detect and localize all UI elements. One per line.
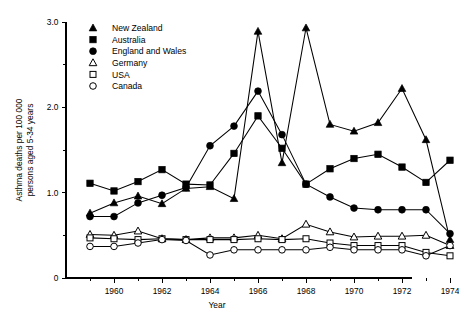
data-point-marker: [447, 230, 454, 237]
x-tick-label: 1972: [393, 286, 412, 296]
data-point-marker: [231, 123, 238, 130]
data-point-marker: [255, 88, 262, 95]
data-point-marker: [207, 237, 213, 243]
y-axis-title-line1: Asthma deaths per 100 000: [14, 98, 24, 201]
data-point-marker: [422, 136, 430, 143]
data-point-marker: [231, 150, 237, 156]
data-point-marker: [89, 24, 97, 31]
data-point-marker: [327, 244, 334, 251]
data-point-marker: [303, 181, 310, 188]
x-tick-label: 1968: [297, 286, 316, 296]
data-point-marker: [134, 192, 142, 199]
data-point-marker: [111, 236, 117, 242]
data-point-marker: [111, 188, 117, 194]
legend-label: Canada: [112, 81, 142, 91]
data-point-marker: [303, 236, 309, 242]
x-tick-label: 1970: [345, 286, 364, 296]
data-point-marker: [374, 232, 382, 239]
series-line: [90, 240, 450, 256]
data-point-marker: [351, 155, 357, 161]
data-point-marker: [87, 235, 93, 241]
data-point-marker: [207, 142, 214, 149]
data-point-marker: [303, 247, 310, 254]
data-point-marker: [399, 247, 406, 254]
legend-label: Germany: [112, 58, 148, 68]
x-tick-label: 1966: [249, 286, 268, 296]
data-point-marker: [90, 48, 97, 55]
data-point-marker: [207, 252, 214, 259]
data-point-marker: [302, 220, 310, 227]
data-point-marker: [399, 206, 406, 213]
data-point-marker: [255, 236, 261, 242]
data-point-marker: [135, 240, 142, 247]
data-point-marker: [159, 166, 165, 172]
data-point-marker: [135, 200, 142, 207]
legend-label: Australia: [112, 35, 146, 45]
legend-label: England and Wales: [112, 46, 186, 56]
data-point-marker: [447, 157, 453, 163]
data-point-marker: [279, 237, 285, 243]
legend-label: USA: [112, 70, 130, 80]
data-point-marker: [207, 182, 213, 188]
data-point-marker: [90, 83, 97, 90]
y-tick-label: 3.0: [47, 17, 59, 27]
x-axis-title: Year: [209, 300, 226, 310]
data-point-marker: [183, 237, 190, 244]
data-point-marker: [111, 213, 118, 220]
data-point-marker: [423, 206, 430, 213]
data-point-marker: [375, 247, 382, 254]
data-point-marker: [278, 159, 286, 166]
data-point-marker: [90, 36, 96, 42]
series-line: [90, 91, 450, 234]
data-point-marker: [279, 247, 286, 254]
data-point-marker: [447, 253, 453, 259]
data-point-marker: [279, 131, 286, 138]
data-point-marker: [399, 164, 405, 170]
data-point-marker: [230, 195, 238, 202]
data-point-marker: [375, 206, 382, 213]
data-point-marker: [327, 166, 333, 172]
data-point-marker: [255, 247, 262, 254]
data-point-marker: [302, 24, 310, 31]
data-point-marker: [111, 243, 118, 250]
data-point-marker: [183, 184, 190, 191]
x-tick-label: 1962: [153, 286, 172, 296]
series-australia: [87, 113, 453, 194]
data-point-marker: [351, 205, 358, 212]
axes-group: 01.02.03.0196019621964196619681970197219…: [14, 17, 459, 310]
y-tick-label: 0: [54, 273, 59, 283]
data-point-marker: [159, 192, 166, 199]
data-point-marker: [447, 242, 454, 249]
data-point-marker: [375, 151, 381, 157]
data-point-marker: [159, 236, 166, 243]
data-point-marker: [398, 85, 406, 92]
data-point-marker: [326, 120, 334, 127]
data-point-marker: [231, 247, 238, 254]
series-line: [90, 238, 450, 256]
data-point-marker: [87, 213, 94, 220]
data-point-marker: [327, 194, 334, 201]
series-line: [90, 116, 450, 191]
data-point-marker: [255, 113, 261, 119]
data-point-marker: [135, 178, 141, 184]
data-point-marker: [87, 180, 93, 186]
legend: New ZealandAustraliaEngland and WalesGer…: [89, 23, 186, 91]
y-axis-title-line2: persons aged 5-34 years: [25, 104, 35, 197]
chart-canvas: 01.02.03.0196019621964196619681970197219…: [0, 0, 459, 332]
x-tick-label: 1960: [105, 286, 124, 296]
legend-label: New Zealand: [112, 23, 163, 33]
data-point-marker: [90, 71, 96, 77]
asthma-mortality-chart: 01.02.03.0196019621964196619681970197219…: [0, 0, 459, 332]
data-point-marker: [422, 231, 430, 238]
data-point-marker: [423, 253, 430, 260]
series-england-and-wales: [87, 88, 454, 237]
data-point-marker: [423, 179, 429, 185]
x-tick-label: 1974: [441, 286, 459, 296]
data-point-marker: [87, 243, 94, 250]
x-tick-label: 1964: [201, 286, 220, 296]
data-point-marker: [134, 227, 142, 234]
y-tick-label: 1.0: [47, 188, 59, 198]
data-point-marker: [279, 145, 285, 151]
data-point-marker: [89, 59, 97, 66]
data-point-marker: [231, 237, 237, 243]
